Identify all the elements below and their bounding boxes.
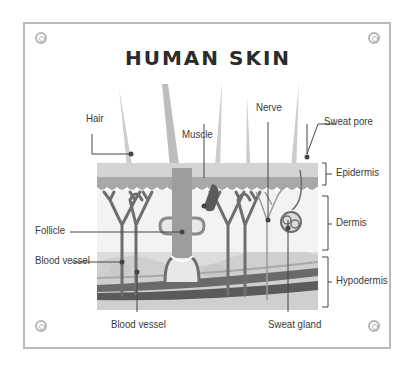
label-dermis: Dermis [336,216,367,228]
label-sweat-gland: Sweat gland [268,318,321,330]
skin-cross-section [0,0,416,368]
label-hypodermis: Hypodermis [336,274,388,286]
label-follicle: Follicle [35,224,65,236]
label-nerve: Nerve [256,101,282,113]
label-epidermis: Epidermis [336,166,379,178]
label-sweat-pore: Sweat pore [324,115,373,127]
label-muscle: Muscle [182,128,213,140]
label-blood-vessel-bottom: Blood vessel [111,318,166,330]
label-blood-vessel-left: Blood vessel [35,254,90,266]
label-hair: Hair [86,112,104,124]
